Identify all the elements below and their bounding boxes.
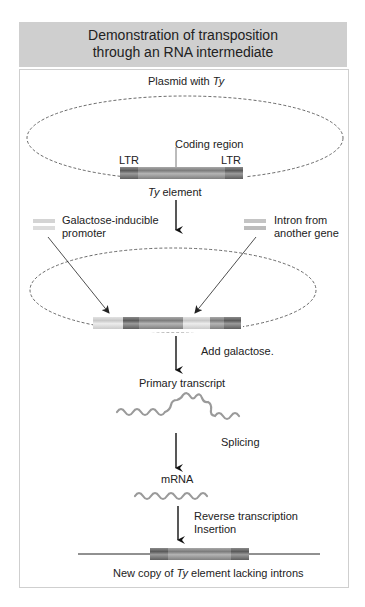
primary-transcript-label: Primary transcript <box>139 377 225 390</box>
intron-swatch <box>244 219 266 230</box>
primary-transcript-wave <box>117 393 239 419</box>
reverse-transcription-label: Reverse transcriptionInsertion <box>194 510 298 536</box>
ltr-left-label: LTR <box>119 154 139 167</box>
new-ty-copy-bar <box>150 548 249 560</box>
mrna-wave <box>135 493 207 499</box>
plasmid-label: Plasmid with Ty <box>148 75 224 88</box>
arrow-intron-insert <box>195 237 256 313</box>
new-copy-label: New copy of Ty element lacking introns <box>113 567 304 580</box>
diagram-graphics <box>0 0 365 607</box>
add-galactose-label: Add galactose. <box>201 345 274 358</box>
intron-label: Intron fromanother gene <box>274 214 339 240</box>
ty-element-label: Ty element <box>148 186 202 199</box>
splicing-label: Splicing <box>221 436 260 449</box>
arrow-promoter-insert <box>48 237 109 313</box>
coding-region-label: Coding region <box>175 138 244 151</box>
modified-ty-bar <box>93 317 241 329</box>
mrna-label: mRNA <box>161 473 193 486</box>
promoter-label: Galactose-induciblepromoter <box>62 214 159 240</box>
promoter-swatch <box>33 219 55 230</box>
ltr-right-label: LTR <box>221 154 241 167</box>
